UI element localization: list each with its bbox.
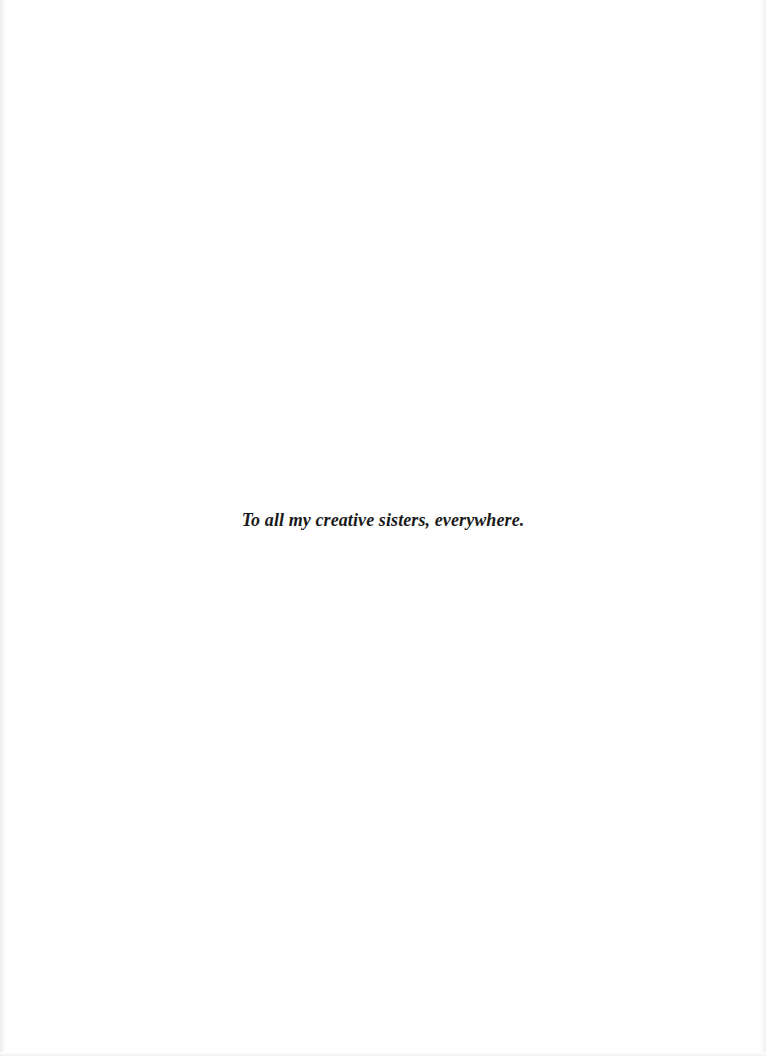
dedication-text: To all my creative sisters, everywhere.: [0, 510, 766, 531]
book-page: To all my creative sisters, everywhere.: [0, 0, 766, 1056]
page-bottom-edge-shadow: [0, 1052, 766, 1056]
